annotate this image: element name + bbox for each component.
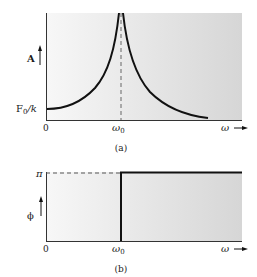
y-arrow-icon-a bbox=[38, 45, 42, 51]
x-arrow-icon-b bbox=[242, 247, 248, 251]
y-tick-f0k: F0/k bbox=[16, 103, 37, 116]
panel-a: A F0/k 0 ω0 ω (a) bbox=[16, 13, 248, 153]
plot-area-b bbox=[47, 172, 242, 241]
caption-b: (b) bbox=[115, 264, 128, 274]
y-tick-pi: π bbox=[35, 168, 43, 179]
x-axis-label-b: ω bbox=[221, 243, 229, 254]
y-arrow-icon-b bbox=[39, 196, 43, 202]
plot-area-a bbox=[47, 13, 242, 120]
panel-b: π ϕ 0 ω0 ω (b) bbox=[27, 168, 248, 274]
x-tick-zero-b: 0 bbox=[43, 244, 49, 254]
y-axis-label-a: A bbox=[26, 53, 35, 64]
figure: A F0/k 0 ω0 ω (a) π ϕ 0 ω0 ω (b) bbox=[0, 0, 257, 277]
x-axis-label-a: ω bbox=[221, 122, 229, 133]
caption-a: (a) bbox=[115, 143, 127, 153]
x-tick-zero-a: 0 bbox=[43, 123, 49, 133]
y-axis-label-b: ϕ bbox=[27, 210, 34, 221]
x-arrow-icon-a bbox=[242, 126, 248, 130]
x-tick-w0-a: ω0 bbox=[112, 122, 125, 135]
x-tick-w0-b: ω0 bbox=[112, 243, 125, 256]
